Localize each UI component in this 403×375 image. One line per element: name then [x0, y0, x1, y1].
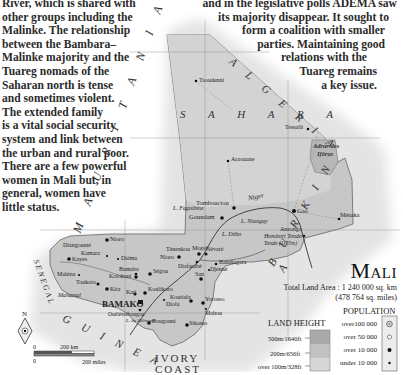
land-height-500m: 500m/1640ft — [268, 335, 302, 342]
population-title: POPULATION — [343, 306, 395, 316]
lake-selingue-label: L. de Sélingué — [126, 318, 154, 323]
city-san: San — [195, 271, 204, 277]
adrar-label-2: Ifôras — [317, 150, 333, 157]
city-goundam: Goundam — [189, 213, 215, 220]
city-nioro: Nioro — [110, 236, 124, 242]
height-100m-swatch — [310, 358, 330, 371]
scale-bar — [34, 351, 94, 356]
city-mahou: Mahou — [205, 310, 222, 316]
city-sevare: Sévaré — [207, 246, 223, 252]
city-toukoto: Toukoto — [76, 279, 96, 285]
land-height-200m: 200m/656ft — [270, 350, 300, 357]
city-diola: Diola — [166, 301, 179, 307]
city-bamako: BAMAKO — [102, 299, 144, 309]
city-yorosso: Yorosso — [205, 296, 224, 302]
scale-km-zero: 0 — [33, 344, 36, 350]
city-kolokani: Kolokani — [109, 273, 131, 279]
height-ticks — [305, 338, 310, 366]
city-koutiala: Koutiala — [170, 294, 191, 300]
city-tessalit: Tessalit — [285, 124, 303, 130]
hombori-elevation-label: Tondo (1155m) — [264, 240, 297, 246]
ivory-coast-label-2: COAST — [155, 363, 201, 375]
city-koulikoro: Koulikoro — [148, 286, 173, 292]
height-500m-swatch — [310, 330, 330, 344]
hombori-label: Hombori Tondo — [264, 233, 302, 239]
text-line: form a coalition with smaller — [202, 24, 397, 38]
text-line: and in the legislative polls ADEMA saw — [202, 0, 397, 11]
scale-miles-label: 200 miles — [82, 359, 106, 365]
total-land-area-miles: (478 764 sq. miles) — [284, 293, 397, 303]
city-mahamal: Mahamal — [58, 292, 81, 298]
city-diafarabe: Diafarabé — [178, 263, 202, 269]
scale-miles-zero: 0 — [33, 358, 36, 364]
city-diangounte: Diangounté — [63, 242, 91, 248]
pop-over100k-dot — [388, 323, 390, 325]
city-tenenkou: Ténenkou — [166, 246, 190, 252]
city-mopti: Mopti — [192, 244, 208, 251]
sahara-label: S A H A R A — [180, 108, 343, 120]
scale-km-label: 200 km — [60, 344, 78, 350]
pop-under10k-label: under 10 000 — [340, 359, 377, 367]
city-diema: Diéma — [121, 255, 137, 261]
city-sikasso: Sikasso — [189, 320, 207, 326]
total-land-area-km: Total Land Area : 1 240 000 sq. km — [284, 283, 397, 293]
city-segou: Ségou — [153, 268, 168, 274]
pop-over100k-label: over100 000 — [342, 320, 377, 328]
lake-debo-label: L. Débo — [222, 231, 241, 237]
city-tombouctou: Tombouctou — [196, 199, 229, 206]
land-height-100m: over 100m/328ft — [258, 363, 302, 370]
city-djenne: Djenné — [210, 266, 227, 272]
pop-over50k-label: over 50 000 — [344, 333, 377, 341]
land-height-title: LAND HEIGHT — [268, 318, 325, 328]
text-line: parties. Maintaining good — [202, 38, 397, 52]
text-line: its majority disappear. It sought to — [202, 11, 397, 25]
right-paragraph: and in the legislative polls ADEMA saw i… — [202, 0, 397, 92]
city-araouane: Araouane — [231, 156, 254, 162]
city-kayes: Kayes — [72, 256, 87, 262]
city-gao: Gao — [297, 207, 308, 214]
city-kita: Kita — [110, 286, 120, 292]
pop-over50k-icon — [388, 335, 392, 339]
city-kati: Kati — [126, 289, 136, 295]
city-taoudenni: Taoudenni — [199, 77, 224, 83]
city-ansongo: Ansongo — [280, 226, 302, 232]
city-bamaba: Bamaba — [119, 266, 139, 272]
text-line: a key issue. — [202, 79, 397, 93]
pop-under10k-icon — [388, 362, 390, 364]
city-mahina: Mahina — [57, 271, 75, 277]
city-nioro-2: Nioro — [160, 254, 174, 260]
pop-over10k-icon — [388, 348, 392, 352]
city-bandiagara: Bandiagara — [219, 259, 246, 265]
map-title: Mali — [350, 258, 397, 284]
pop-over10k-label: over 10 000 — [344, 346, 377, 354]
city-bougouni: Bougouni — [152, 318, 176, 324]
lake-niangay-label: L. Niangay — [241, 218, 268, 224]
compass-icon — [18, 318, 32, 344]
city-menaka: Ménaka — [340, 212, 359, 218]
adrar-label-1: Adrar des — [313, 142, 339, 149]
city-oueleessebougou: Ouéléssébougou — [108, 311, 144, 317]
compass-north-label: N — [22, 310, 27, 318]
total-land-area: Total Land Area : 1 240 000 sq. km (478 … — [284, 283, 397, 303]
height-200m-swatch — [310, 344, 330, 358]
